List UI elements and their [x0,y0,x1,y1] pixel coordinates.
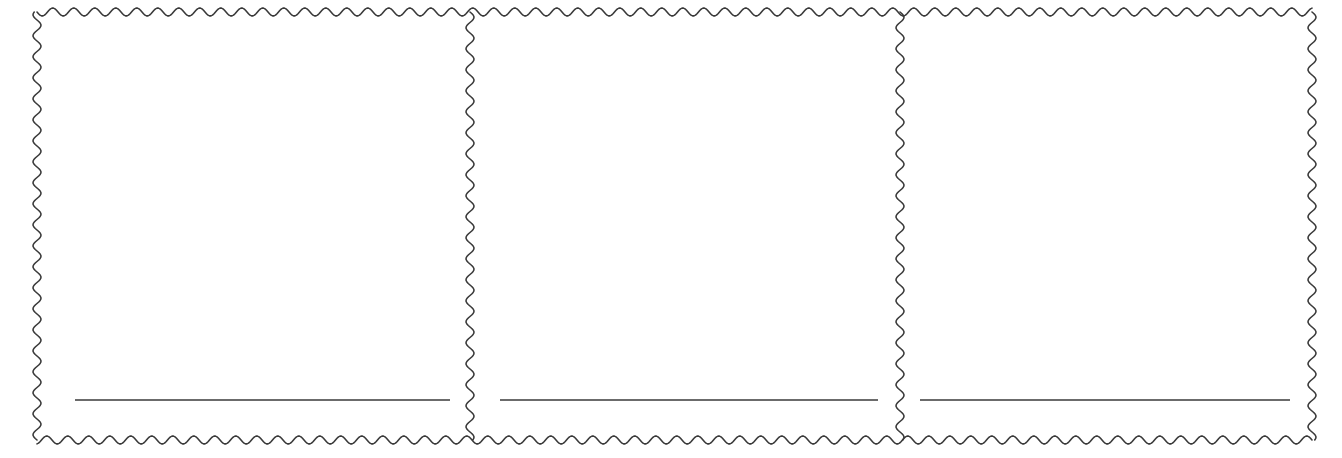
page-background [0,0,1342,458]
page-canvas [0,0,1342,458]
scalloped-panels-artboard [0,0,1342,458]
